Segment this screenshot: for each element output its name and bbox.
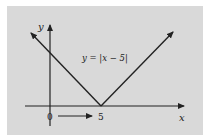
x-axis-label: x: [179, 112, 185, 123]
equation-label: y = |x − 5|: [81, 53, 128, 64]
tick-label-5: 5: [98, 112, 104, 122]
y-axis-label: y: [37, 21, 44, 32]
figure: y x 0 5 y = |x − 5|: [0, 0, 212, 139]
graph-right-branch: [101, 32, 173, 106]
plot-svg: y x 0 5 y = |x − 5|: [0, 0, 212, 139]
graph-left-branch: [31, 33, 101, 106]
tick-label-0: 0: [47, 112, 53, 122]
